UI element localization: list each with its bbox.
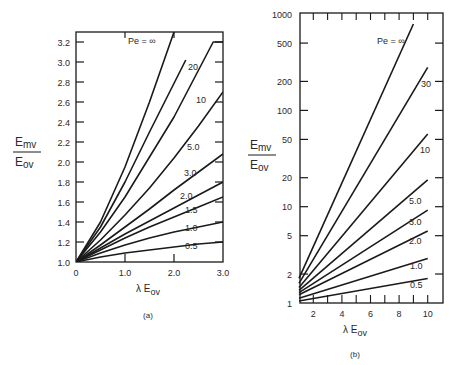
series-label: 3.0 — [409, 217, 422, 227]
series-label: 0.5 — [410, 280, 423, 290]
y-tick-label: 1.2 — [57, 238, 70, 248]
series-label: 2.0 — [409, 236, 422, 246]
chart-panel-a: 1.01.21.41.61.82.02.22.42.62.83.03.201.0… — [13, 32, 229, 320]
series-label: 1.0 — [410, 261, 423, 271]
y-tick-label: 2.8 — [57, 78, 70, 88]
x-tick-label: 0 — [73, 268, 78, 278]
series-line — [299, 278, 428, 301]
panel-label-a: (a) — [143, 311, 153, 320]
series-label: Pe = ∞ — [128, 36, 156, 46]
y-tick-label: 1.8 — [57, 178, 70, 188]
y-axis-label-denominator: Eov — [15, 155, 34, 170]
y-tick-label: 500 — [277, 39, 292, 49]
x-tick-label: 10 — [423, 309, 433, 319]
y-tick-label: 5 — [287, 231, 292, 241]
series-line-10 — [76, 42, 223, 262]
y-tick-label: 1.6 — [57, 198, 70, 208]
chart-panel-b: 1251020501002005001000246810Pe = ∞30105.… — [248, 10, 443, 359]
x-tick-label: 3.0 — [217, 268, 230, 278]
y-tick-label: 200 — [277, 77, 292, 87]
x-tick-label: 1.0 — [119, 268, 132, 278]
series-label: 0.5 — [185, 241, 198, 251]
y-tick-label: 2.6 — [57, 98, 70, 108]
x-tick-label: 2.0 — [168, 268, 181, 278]
x-axis-label: λ Eov — [136, 283, 160, 297]
series-label: 30 — [421, 79, 431, 89]
y-tick-label: 1.0 — [57, 258, 70, 268]
y-tick-label: 50 — [282, 135, 292, 145]
x-tick-label: 4 — [339, 309, 344, 319]
y-tick-label: 100 — [277, 106, 292, 116]
x-tick-label: 8 — [397, 309, 402, 319]
y-tick-label: 10 — [282, 202, 292, 212]
y-tick-label: 1.4 — [57, 218, 70, 228]
y-axis-label-denominator: Eov — [250, 158, 269, 173]
series-label: 10 — [420, 145, 430, 155]
x-tick-label: 6 — [368, 309, 373, 319]
x-tick-label: 2 — [311, 309, 316, 319]
y-tick-label: 1 — [287, 299, 292, 309]
figure: 1.01.21.41.61.82.02.22.42.62.83.03.201.0… — [0, 0, 458, 365]
y-axis-label-numerator: Emv — [15, 135, 36, 150]
y-axis-label-numerator: Emv — [250, 138, 271, 153]
series-line-5-0 — [76, 92, 223, 262]
y-tick-label: 2.2 — [57, 138, 70, 148]
y-tick-label: 2 — [287, 270, 292, 280]
y-tick-label: 1000 — [272, 10, 292, 20]
y-tick-label: 2.0 — [57, 158, 70, 168]
y-tick-label: 3.0 — [57, 58, 70, 68]
series-label: 20 — [188, 62, 198, 72]
y-tick-label: 3.2 — [57, 38, 70, 48]
series-line-3-0 — [76, 154, 223, 262]
series-label: 5.0 — [409, 196, 422, 206]
panel-label-b: (b) — [350, 350, 360, 359]
series-label: 2.0 — [180, 191, 193, 201]
series-label: 5.0 — [187, 142, 200, 152]
series-label: 3.0 — [184, 168, 197, 178]
figure-canvas: 1.01.21.41.61.82.02.22.42.62.83.03.201.0… — [0, 0, 458, 365]
y-tick-label: 20 — [282, 173, 292, 183]
y-tick-label: 2.4 — [57, 118, 70, 128]
x-axis-label: λ Eov — [343, 324, 367, 338]
series-label: 1.5 — [185, 205, 198, 215]
series-label: 10 — [196, 95, 206, 105]
series-label: 1.0 — [185, 223, 198, 233]
series-label: Pe = ∞ — [377, 36, 405, 46]
